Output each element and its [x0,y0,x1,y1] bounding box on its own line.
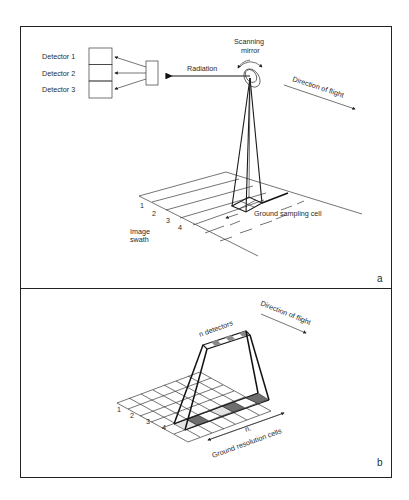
arrow-to-detector-1 [115,57,146,67]
svg-text:1: 1 [117,405,121,414]
ifov-cone [232,78,262,212]
panel-b: Direction of flight [117,299,383,468]
panel-a: Detector 1 Detector 2 Detector 3 Radiati… [42,37,383,284]
scanner-diagram: Detector 1 Detector 2 Detector 3 Radiati… [0,0,409,500]
svg-text:4: 4 [178,223,182,232]
svg-text:2: 2 [152,209,156,218]
panel-a-letter: a [377,273,383,284]
mirror-label-line1: Scanning [234,37,264,46]
swath-label-line2: swath [130,235,149,244]
detector-1-label: Detector 1 [42,52,75,61]
radiation-label: Radiation [187,64,217,73]
beam-splitter [146,61,158,85]
arrow-to-detector-3 [115,79,146,89]
mirror-label-line2: mirror [241,46,260,55]
flight-label-b: Direction of flight [259,299,312,327]
scan-direction-arrow [226,214,238,218]
svg-text:4: 4 [162,423,166,432]
flight-label-a: Direction of flight [291,74,345,99]
panel-b-letter: b [377,457,383,468]
svg-text:1: 1 [140,201,144,210]
svg-text:2: 2 [130,411,134,420]
image-swath [139,172,362,256]
svg-text:3: 3 [146,417,150,426]
detector-2-label: Detector 2 [42,69,75,78]
detector-3-label: Detector 3 [42,85,75,94]
ground-cell-label: Ground sampling cell [254,209,322,218]
detector-stack: Detector 1 Detector 2 Detector 3 [42,48,112,98]
svg-text:3: 3 [166,216,170,225]
panel-b-frame [21,289,392,478]
